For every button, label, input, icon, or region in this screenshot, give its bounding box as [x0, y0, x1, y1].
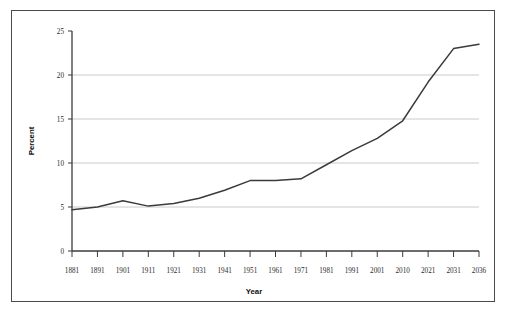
- x-axis-tick-label: 1921: [167, 267, 182, 275]
- x-axis-ticks-group: 1881189119011911192119311941195119611971…: [65, 251, 487, 275]
- x-axis-tick-label: 1981: [319, 267, 334, 275]
- y-axis-title: Percent: [27, 126, 36, 155]
- x-axis-tick-label: 1891: [90, 267, 105, 275]
- chart-figure-frame: 0510152025 18811891190119111921193119411…: [11, 10, 495, 302]
- x-axis-tick-label: 2001: [370, 267, 385, 275]
- y-axis-ticks-group: 0510152025: [57, 28, 72, 256]
- x-axis-tick-label: 1881: [65, 267, 80, 275]
- y-axis-tick-label: 15: [57, 116, 65, 124]
- y-axis-tick-label: 0: [60, 248, 64, 256]
- x-axis-tick-label: 1951: [243, 267, 258, 275]
- line-chart: 0510152025 18811891190119111921193119411…: [12, 11, 496, 303]
- data-series-line: [72, 44, 479, 209]
- y-axis-tick-label: 25: [57, 28, 65, 36]
- x-axis-tick-label: 2036: [472, 267, 487, 275]
- x-axis-tick-label: 1941: [217, 267, 232, 275]
- x-axis-tick-label: 1961: [268, 267, 283, 275]
- x-axis-tick-label: 1991: [345, 267, 360, 275]
- x-axis-tick-label: 2031: [446, 267, 461, 275]
- x-axis-tick-label: 1901: [116, 267, 131, 275]
- y-axis-tick-label: 5: [60, 204, 64, 212]
- y-axis-tick-label: 10: [57, 160, 65, 168]
- x-axis-tick-label: 1911: [141, 267, 156, 275]
- x-axis-title: Year: [246, 287, 262, 296]
- gridlines-group: [72, 75, 479, 207]
- y-axis-tick-label: 20: [57, 72, 65, 80]
- x-axis-tick-label: 1971: [294, 267, 309, 275]
- x-axis-tick-label: 2010: [396, 267, 411, 275]
- x-axis-tick-label: 1931: [192, 267, 207, 275]
- x-axis-tick-label: 2021: [421, 267, 436, 275]
